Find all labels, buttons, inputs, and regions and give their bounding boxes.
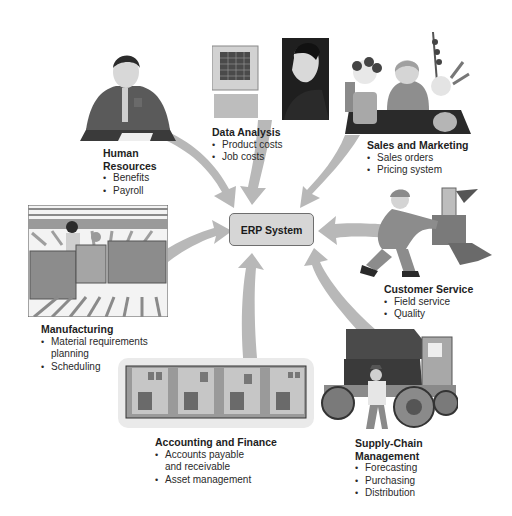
module-item: Quality: [384, 308, 473, 321]
module-item: Forecasting: [355, 462, 423, 475]
person-at-computer-icon: [212, 38, 330, 120]
module-customer-service: Customer Service Field service Quality: [384, 283, 473, 321]
module-item: Product costs: [212, 139, 283, 152]
module-human-resources: Human Resources Benefits Payroll: [103, 147, 157, 197]
module-accounting-and-finance: Accounting and Finance Accounts payablea…: [155, 436, 277, 486]
module-data-analysis: Data Analysis Product costs Job costs: [212, 126, 283, 164]
arrow-sales-to-erp: [300, 135, 360, 208]
module-title: Management: [355, 450, 423, 463]
module-item: Payroll: [103, 185, 157, 198]
person-writing-at-desk-icon: [78, 48, 178, 143]
module-manufacturing: Manufacturing Material requirementsplann…: [41, 323, 148, 373]
module-item: Accounts payableand receivable: [155, 449, 277, 474]
module-sales-and-marketing: Sales and Marketing Sales orders Pricing…: [367, 139, 469, 177]
module-title: Resources: [103, 160, 157, 173]
module-item: Field service: [384, 296, 473, 309]
module-supply-chain-management: Supply-Chain Management Forecasting Purc…: [355, 437, 423, 500]
technician-repairing-machine-icon: [360, 185, 492, 280]
module-item: Purchasing: [355, 475, 423, 488]
module-title: Manufacturing: [41, 323, 148, 336]
module-item: Benefits: [103, 172, 157, 185]
module-item: Asset management: [155, 474, 277, 487]
module-item: Job costs: [212, 151, 283, 164]
arrow-accounting-to-erp: [238, 253, 264, 368]
module-title: Data Analysis: [212, 126, 283, 139]
module-item: Pricing system: [367, 164, 469, 177]
module-item: Distribution: [355, 487, 423, 500]
truck-with-worker-icon: [318, 325, 458, 435]
arrow-manufacturing-to-erp: [162, 220, 232, 262]
module-item: Sales orders: [367, 152, 469, 165]
erp-system-box: ERP System: [229, 213, 314, 246]
factory-floor-workers-icon: [28, 205, 168, 317]
erp-system-label: ERP System: [241, 224, 303, 236]
module-title: Sales and Marketing: [367, 139, 469, 152]
module-title: Supply-Chain: [355, 437, 423, 450]
module-title: Customer Service: [384, 283, 473, 296]
florist-with-flowers-icon: [345, 22, 473, 134]
module-title: Accounting and Finance: [155, 436, 277, 449]
module-title: Human: [103, 147, 157, 160]
module-item: Material requirementsplanning: [41, 336, 148, 361]
module-item: Scheduling: [41, 361, 148, 374]
